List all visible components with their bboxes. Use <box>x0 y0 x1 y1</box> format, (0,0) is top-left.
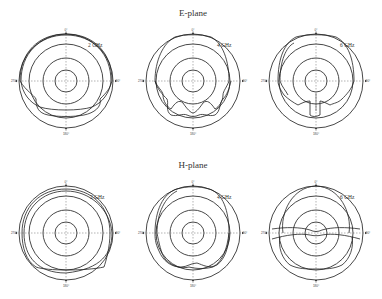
polar-plot-e-6ghz: 0° 270° 90° 180° 6 GHz <box>261 28 371 136</box>
svg-text:270°: 270° <box>11 79 18 83</box>
h-plane-title: H-plane <box>179 160 208 170</box>
svg-text:180°: 180° <box>190 284 197 288</box>
svg-text:270°: 270° <box>138 231 145 235</box>
svg-text:90°: 90° <box>366 79 371 83</box>
svg-text:180°: 180° <box>63 132 70 136</box>
svg-text:4 GHz: 4 GHz <box>217 194 232 200</box>
polar-plot-e-2ghz: 0° 270° 90° 180° 2 GHz <box>11 28 121 136</box>
svg-text:6 GHz: 6 GHz <box>340 42 355 48</box>
svg-text:180°: 180° <box>313 284 320 288</box>
polar-plot-h-2ghz: 0° 270° 90° 180° 2 GHz <box>11 180 121 288</box>
svg-text:180°: 180° <box>190 132 197 136</box>
svg-text:0°: 0° <box>65 180 69 184</box>
svg-text:6 GHz: 6 GHz <box>340 194 355 200</box>
svg-text:180°: 180° <box>63 284 70 288</box>
svg-text:270°: 270° <box>138 79 145 83</box>
svg-text:0°: 0° <box>315 180 319 184</box>
radiation-pattern-figure: E-plane H-plane 0° 270° 90° 180° 2 GHz 0… <box>0 0 382 299</box>
svg-text:90°: 90° <box>116 79 121 83</box>
svg-text:270°: 270° <box>261 231 268 235</box>
polar-plot-e-4ghz: 0° 270° 90° 180° 4 GHz <box>138 28 248 136</box>
svg-text:0°: 0° <box>65 28 69 32</box>
polar-plot-h-6ghz: 0° 270° 90° 180° 6 GHz <box>261 180 371 288</box>
svg-text:0°: 0° <box>192 180 196 184</box>
svg-text:180°: 180° <box>313 132 320 136</box>
polar-plot-h-4ghz: 0° 270° 90° 180° 4 GHz <box>138 180 248 288</box>
svg-text:0°: 0° <box>192 28 196 32</box>
e-plane-title: E-plane <box>179 8 207 18</box>
svg-text:90°: 90° <box>243 79 248 83</box>
svg-text:4 GHz: 4 GHz <box>217 42 232 48</box>
svg-text:90°: 90° <box>366 231 371 235</box>
svg-text:90°: 90° <box>116 231 121 235</box>
svg-text:270°: 270° <box>11 231 18 235</box>
svg-text:0°: 0° <box>315 28 319 32</box>
svg-text:90°: 90° <box>243 231 248 235</box>
svg-text:270°: 270° <box>261 79 268 83</box>
